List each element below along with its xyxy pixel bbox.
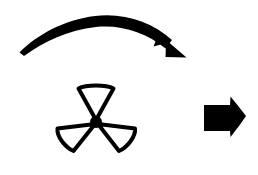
diagram-canvas: Three-bladed fan rotation diagram A curv… xyxy=(0,0,258,175)
diagram-svg xyxy=(0,0,258,175)
propeller-hub xyxy=(90,116,102,128)
